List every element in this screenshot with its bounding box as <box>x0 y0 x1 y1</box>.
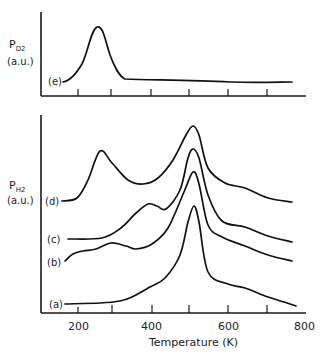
svg-text:800: 800 <box>294 320 315 333</box>
curve-c <box>68 149 292 242</box>
curve-label-a: (a) <box>49 299 63 310</box>
curve-a <box>65 206 296 306</box>
bottom-y-units: (a.u.) <box>7 195 34 206</box>
top-panel: PD2 (a.u.) (e) <box>7 12 306 96</box>
curve-e <box>63 27 292 83</box>
bottom-y-label: PH2 <box>9 179 25 194</box>
curve-label-c: (c) <box>47 234 60 245</box>
curve-label-e: (e) <box>48 76 62 87</box>
curve-b <box>65 172 292 261</box>
top-x-ticks <box>78 89 267 96</box>
curve-label-d: (d) <box>45 196 59 207</box>
curve-label-b: (b) <box>47 257 61 268</box>
svg-text:200: 200 <box>68 320 89 333</box>
tpd-figure: PD2 (a.u.) (e) 200 400 600 800 Temperatu… <box>0 0 330 356</box>
top-y-label: PD2 <box>9 38 25 53</box>
bottom-panel: 200 400 600 800 Temperature (K) PH2 (a.u… <box>7 115 315 349</box>
svg-text:600: 600 <box>218 320 239 333</box>
x-tick-labels: 200 400 600 800 <box>68 320 315 333</box>
top-y-units: (a.u.) <box>7 56 34 67</box>
bottom-x-ticks <box>78 305 267 313</box>
x-axis-label: Temperature (K) <box>148 336 238 349</box>
svg-text:400: 400 <box>141 320 162 333</box>
curve-d <box>62 126 292 202</box>
